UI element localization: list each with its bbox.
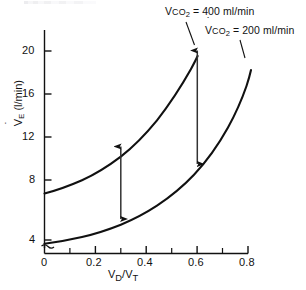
- annotation-200-v: V: [205, 24, 212, 36]
- y-tick-label-4: 4: [29, 234, 35, 245]
- y-axis: [42, 30, 55, 248]
- x-axis: [45, 246, 249, 254]
- x-axis-title: VD/VT: [108, 268, 138, 283]
- y-tick-label-8: 8: [29, 174, 35, 185]
- x-tick-label-0.6: 0.6: [188, 257, 204, 268]
- curve-vco2-200: [45, 70, 252, 244]
- annotation-400-v: V: [165, 5, 172, 17]
- leader-line-200: [240, 40, 245, 58]
- annotation-400-co: CO: [172, 7, 186, 17]
- chart-figure: 20 16 12 8 4 0 0.2 0.4 0.6 0.8 VE (l/min…: [0, 0, 306, 290]
- y-axis-title-sub: E: [17, 114, 26, 119]
- x-tick-label-0.2: 0.2: [86, 257, 102, 268]
- y-tick-label-20: 20: [22, 45, 35, 56]
- annotation-400-rest: = 400 ml/min: [190, 5, 255, 17]
- x-axis-title-v2: V: [125, 268, 132, 280]
- annotation-200-rest: = 200 ml/min: [230, 24, 295, 36]
- x-tick-label-0: 0: [41, 257, 47, 268]
- y-axis-title-v: V: [12, 119, 24, 126]
- chart-plot-area: [0, 0, 306, 290]
- x-tick-label-0.4: 0.4: [137, 257, 153, 268]
- y-axis-title: VE (l/min): [12, 58, 26, 148]
- y-axis-title-units: (l/min): [12, 80, 24, 114]
- y-axis-break-icon: [42, 245, 55, 248]
- annotation-200-co: CO: [212, 26, 226, 36]
- leader-line-400: [186, 22, 195, 45]
- x-axis-title-sub2: T: [133, 273, 139, 283]
- annotation-vco2-200: VCO2 = 200 ml/min: [205, 24, 295, 38]
- x-tick-label-0.8: 0.8: [239, 257, 255, 268]
